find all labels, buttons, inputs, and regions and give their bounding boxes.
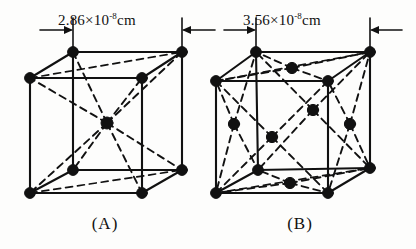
atom-face-center-top [286, 62, 297, 73]
dimension-times-a: × [85, 12, 94, 28]
atom-corner [25, 73, 36, 84]
cell-b-group [211, 18, 402, 198]
atom-corner [137, 188, 148, 199]
atom-body-center [101, 117, 113, 129]
cell-b-atoms [211, 47, 376, 199]
atom-corner [253, 165, 264, 176]
dimension-unit-b: cm [302, 12, 321, 28]
atom-corner [365, 47, 376, 58]
dimension-base-b: 10 [279, 12, 294, 28]
unit-cell-drawing [0, 0, 416, 249]
atom-face-center-left [228, 118, 239, 129]
atom-corner [251, 47, 262, 58]
dimension-label-a: 2.86×10-8cm [58, 12, 136, 29]
dimension-mantissa-b: 3.56 [243, 12, 270, 28]
atom-corner [137, 73, 148, 84]
panel-caption-a: (A) [55, 214, 155, 234]
atom-corner [177, 47, 188, 58]
atom-corner [25, 188, 36, 199]
cell-a-group [25, 18, 215, 198]
atom-face-center-right [344, 118, 355, 129]
dimension-times-b: × [270, 12, 279, 28]
atom-corner [211, 188, 222, 199]
atom-face-center-back [307, 104, 318, 115]
atom-corner [365, 163, 376, 174]
atom-corner [211, 76, 222, 87]
atom-face-center-front [266, 131, 277, 142]
atom-corner [323, 76, 334, 87]
atom-corner [323, 188, 334, 199]
dimension-exponent-b: -8 [294, 11, 302, 21]
arrowhead-right [370, 26, 379, 34]
panel-caption-b: (B) [250, 214, 350, 234]
atom-face-center-bottom [284, 177, 295, 188]
dimension-unit-a: cm [117, 12, 136, 28]
atom-corner [177, 165, 188, 176]
atom-corner [68, 165, 79, 176]
atom-corner [68, 47, 79, 58]
dimension-exponent-a: -8 [109, 11, 117, 21]
arrowhead-right [182, 26, 191, 34]
dimension-mantissa-a: 2.86 [58, 12, 85, 28]
dimension-base-a: 10 [94, 12, 109, 28]
crystal-unit-cell-figure: 2.86×10-8cm 3.56×10-8cm (A) (B) [0, 0, 416, 249]
dimension-label-b: 3.56×10-8cm [243, 12, 321, 29]
